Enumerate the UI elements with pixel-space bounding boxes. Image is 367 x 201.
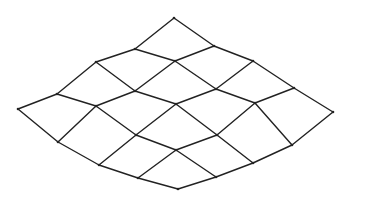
mesh-edge [176,89,216,104]
mesh-edge [135,49,175,61]
mesh-vertex [293,87,296,90]
diamond-mesh-diagram [0,0,367,201]
mesh-edge [253,61,294,88]
mesh-vertex [95,61,98,64]
mesh-edge [138,150,176,178]
mesh-vertices [17,17,335,191]
mesh-edge [176,104,217,135]
mesh-edge [216,89,255,103]
mesh-edge [96,62,135,91]
mesh-vertex [332,111,335,114]
mesh-vertex [215,88,218,91]
mesh-edge [96,106,136,135]
mesh-edge [178,177,216,189]
mesh-edge [57,94,96,106]
mesh-vertex [134,48,137,51]
mesh-vertex [137,177,140,180]
mesh-edge [58,106,96,142]
mesh-edge [136,135,176,150]
mesh-edge [214,46,253,61]
mesh-edge [217,135,253,163]
mesh-edge [135,91,176,104]
mesh-vertex [175,149,178,152]
mesh-vertex [173,17,176,20]
mesh-edge [57,62,96,94]
mesh-vertex [98,164,101,167]
mesh-edge [174,18,214,46]
mesh-edge [216,163,253,177]
mesh-edge [253,145,292,163]
mesh-edge [176,135,217,150]
mesh-edge [18,94,57,109]
mesh-edge [292,112,333,145]
mesh-vertex [252,60,255,63]
mesh-edge [255,103,292,145]
mesh-edge [217,103,255,135]
mesh-edge [136,104,176,135]
mesh-edge [96,49,135,62]
mesh-edge [175,61,216,89]
mesh-edge [294,88,333,112]
mesh-vertex [134,90,137,93]
mesh-vertex [17,108,20,111]
mesh-edge [135,61,175,91]
mesh-vertex [215,176,218,179]
mesh-vertex [291,144,294,147]
mesh-vertex [252,162,255,165]
mesh-edge [18,109,58,142]
mesh-vertex [175,103,178,106]
mesh-vertex [95,105,98,108]
mesh-edge [96,91,135,106]
mesh-vertex [177,188,180,191]
mesh-vertex [254,102,257,105]
mesh-edge [175,46,214,61]
mesh-edge [216,61,253,89]
mesh-edge [58,142,99,165]
mesh-edge [176,150,216,177]
mesh-vertex [135,134,138,137]
mesh-vertex [213,45,216,48]
mesh-edge [135,18,174,49]
mesh-vertex [56,93,59,96]
mesh-edge [138,178,178,189]
mesh-edge [99,135,136,165]
mesh-vertex [174,60,177,63]
mesh-edge [99,165,138,178]
mesh-edge [255,88,294,103]
mesh-vertex [57,141,60,144]
mesh-vertex [216,134,219,137]
